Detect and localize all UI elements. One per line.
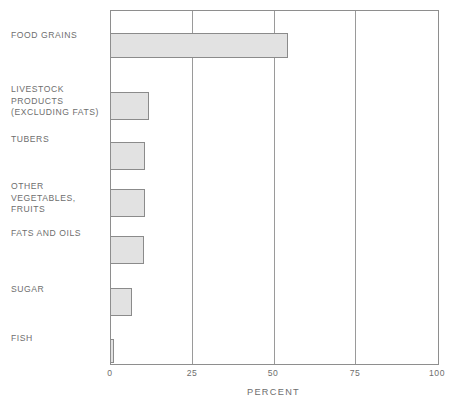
bar-row [111, 142, 438, 170]
category-label-livestock-products: LIVESTOCK PRODUCTS (EXCLUDING FATS) [11, 84, 108, 119]
x-tick-25: 25 [187, 368, 198, 378]
category-label-sugar: SUGAR [11, 284, 108, 296]
bar-row [111, 33, 438, 58]
bar-food-grains[interactable] [111, 33, 288, 58]
bar-row [111, 339, 438, 363]
bar-row [111, 92, 438, 120]
bar-other-vegetables-fruits[interactable] [111, 189, 145, 217]
x-tick-0: 0 [107, 368, 112, 378]
category-label-fats-and-oils: FATS AND OILS [11, 228, 108, 240]
category-label-fish: FISH [11, 333, 108, 345]
x-axis-ticks: 0 25 50 75 100 [0, 368, 455, 382]
bar-fish[interactable] [111, 339, 114, 363]
bar-tubers[interactable] [111, 142, 145, 170]
x-tick-100: 100 [429, 368, 445, 378]
category-label-tubers: TUBERS [11, 134, 108, 146]
bars-layer [111, 11, 438, 364]
x-axis-title: PERCENT [110, 387, 437, 397]
bar-sugar[interactable] [111, 288, 132, 316]
x-tick-75: 75 [350, 368, 361, 378]
category-label-other-vegetables-fruits: OTHER VEGETABLES, FRUITS [11, 181, 108, 216]
bar-fats-and-oils[interactable] [111, 236, 144, 264]
x-tick-50: 50 [268, 368, 279, 378]
bar-livestock-products[interactable] [111, 92, 149, 120]
category-label-food-grains: FOOD GRAINS [11, 30, 108, 42]
category-axis-labels: FOOD GRAINS LIVESTOCK PRODUCTS (EXCLUDIN… [0, 0, 108, 419]
bar-row [111, 189, 438, 217]
bar-row [111, 236, 438, 264]
bar-row [111, 288, 438, 316]
horizontal-bar-chart: FOOD GRAINS LIVESTOCK PRODUCTS (EXCLUDIN… [0, 0, 455, 419]
